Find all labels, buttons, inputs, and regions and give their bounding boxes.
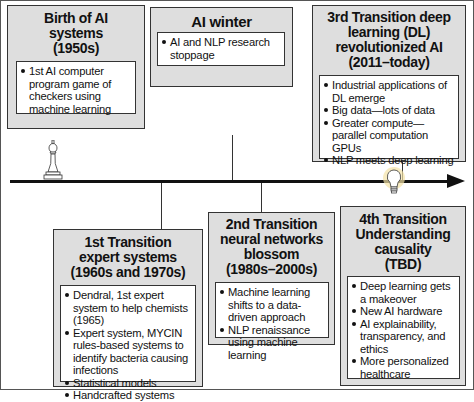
era-box-fourth-transition: 4th Transition Understanding causality (… <box>340 206 466 386</box>
bullet-item: More personalized healthcare <box>352 355 455 380</box>
era-bullets: Machine learning shifts to a data-driven… <box>215 282 329 338</box>
bullet-item: NLP meets deep learning <box>324 154 454 167</box>
era-bullets: 1st AI computer program game of checkers… <box>16 61 136 114</box>
era-box-second-transition: 2nd Transition neural networks blossom (… <box>208 212 335 345</box>
title-line: learning (DL) <box>313 25 465 40</box>
title-line: neural networks <box>209 232 334 247</box>
bullet-item: AI explainability, transparency, and eth… <box>352 318 455 356</box>
timeline-arrowhead <box>447 174 465 188</box>
bullet-item: 1st AI computer program game of checkers… <box>21 65 131 115</box>
bullet-item: New AI hardware <box>352 305 455 318</box>
era-bullets: Industrial applications of DL emerge Big… <box>319 75 459 159</box>
title-line: expert systems <box>54 250 202 265</box>
title-line: 1st Transition <box>54 235 202 250</box>
bullet-item: AI and NLP research stoppage <box>162 36 280 61</box>
title-line: blossom <box>209 247 334 262</box>
bullet-item: Machine learning shifts to a data-driven… <box>220 286 324 324</box>
title-line: Birth of AI <box>8 11 144 26</box>
era-box-third-transition: 3rd Transition deep learning (DL) revolu… <box>312 5 466 162</box>
bullet-item: Dendral, 1st expert system to help chemi… <box>65 289 191 327</box>
era-bullets: Deep learning gets a makeover New AI har… <box>347 276 460 379</box>
bullet-item: Greater compute—parallel computation GPU… <box>324 117 454 155</box>
era-title: 3rd Transition deep learning (DL) revolu… <box>313 6 465 70</box>
era-box-birth-of-ai: Birth of AI systems (1950s) 1st AI compu… <box>7 5 145 129</box>
era-title: 4th Transition Understanding causality (… <box>341 207 465 272</box>
title-line: 2nd Transition <box>209 217 334 232</box>
lightbulb-icon <box>381 167 407 201</box>
connector-second <box>261 183 262 213</box>
era-title: Birth of AI systems (1950s) <box>8 6 144 56</box>
title-line: 3rd Transition deep <box>313 10 465 25</box>
bullet-item: Statistical models <box>65 377 191 390</box>
bullet-item: Expert system, MYCIN rules-based systems… <box>65 327 191 377</box>
chess-pawn-icon <box>40 140 66 182</box>
title-line: revolutionized AI <box>313 40 465 55</box>
bullet-item: Deep learning gets a makeover <box>352 280 455 305</box>
title-line: 4th Transition <box>341 212 465 227</box>
bullet-item: Handcrafted systems <box>65 389 191 402</box>
title-line: Understanding <box>341 227 465 242</box>
era-box-ai-winter: AI winter AI and NLP research stoppage <box>150 7 293 87</box>
title-line: (1950s) <box>8 41 144 56</box>
title-line: (2011–today) <box>313 55 465 70</box>
title-line: (TBD) <box>341 257 465 272</box>
connector-winter <box>232 135 233 180</box>
connector-first <box>161 183 162 231</box>
era-bullets: Dendral, 1st expert system to help chemi… <box>60 285 196 382</box>
title-line: (1980s–2000s) <box>209 262 334 277</box>
era-bullets: AI and NLP research stoppage <box>157 32 285 66</box>
title-line: causality <box>341 242 465 257</box>
bullet-item: NLP renaissance using machine learning <box>220 324 324 362</box>
bullet-item: Big data—lots of data <box>324 104 454 117</box>
title-line: (1960s and 1970s) <box>54 265 202 280</box>
bullet-item: Industrial applications of DL emerge <box>324 79 454 104</box>
era-title: AI winter <box>151 8 292 29</box>
title-line: AI winter <box>151 14 292 29</box>
era-title: 1st Transition expert systems (1960s and… <box>54 230 202 280</box>
era-box-first-transition: 1st Transition expert systems (1960s and… <box>53 229 203 387</box>
era-title: 2nd Transition neural networks blossom (… <box>209 213 334 277</box>
title-line: systems <box>8 26 144 41</box>
